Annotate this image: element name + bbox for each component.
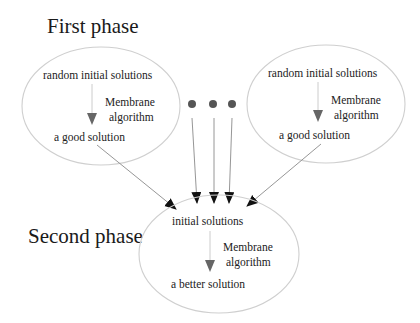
left-phase1-node: random initial solutions Membrane algori… — [22, 47, 180, 165]
left-node-process-line2: algorithm — [109, 111, 154, 124]
left-node-process-line1: Membrane — [105, 96, 155, 108]
right-node-process-line2: algorithm — [334, 109, 379, 122]
left-node-top-label: random initial solutions — [43, 69, 153, 81]
right-node-process-line1: Membrane — [331, 94, 381, 106]
right-node-top-label: random initial solutions — [268, 67, 378, 79]
left-node-bottom-label: a good solution — [54, 131, 125, 144]
first-phase-title: First phase — [47, 14, 139, 38]
right-phase1-node: random initial solutions Membrane algori… — [247, 45, 405, 163]
dot-icon — [228, 100, 236, 108]
left-inner-arrow-head-icon — [87, 113, 97, 125]
edge-right-to-second — [247, 144, 321, 206]
second-node-ellipse — [139, 195, 299, 313]
second-node-process-line1: Membrane — [223, 241, 273, 253]
edge-dot3-to-second — [229, 118, 232, 203]
dot-icon — [209, 100, 217, 108]
edge-left-to-second — [97, 145, 176, 209]
right-node-ellipse — [247, 45, 405, 163]
second-phase-node: initial solutions Membrane algorithm a b… — [139, 195, 299, 313]
left-node-ellipse — [22, 47, 180, 165]
right-node-bottom-label: a good solution — [279, 129, 350, 142]
second-inner-arrow-head-icon — [205, 260, 215, 272]
second-phase-title: Second phase — [28, 224, 143, 248]
second-node-top-label: initial solutions — [172, 215, 244, 227]
dot-icon — [188, 100, 196, 108]
diagram-canvas: First phase Second phase random initial … — [0, 0, 420, 323]
edge-dot1-to-second — [192, 118, 197, 203]
second-node-process-line2: algorithm — [226, 256, 271, 269]
ellipsis-dots — [188, 100, 236, 108]
right-inner-arrow-head-icon — [313, 110, 323, 122]
second-node-bottom-label: a better solution — [171, 278, 245, 290]
